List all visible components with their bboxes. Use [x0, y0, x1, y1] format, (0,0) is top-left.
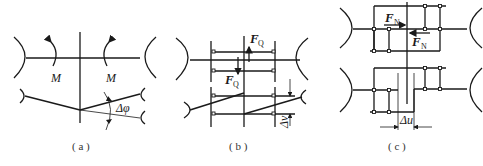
- angle-label: Δφ: [115, 101, 130, 115]
- force-label-top: F: [384, 10, 394, 25]
- displacement-label: Δv: [277, 115, 291, 129]
- lower-right-arc: [470, 68, 482, 112]
- caption-c: ( c ): [388, 140, 406, 153]
- deformed-left: [25, 96, 80, 110]
- deformed-right: [244, 97, 302, 114]
- svg-text:N: N: [394, 18, 400, 27]
- moment-label-left: M: [50, 71, 62, 85]
- upper-right-arc: [470, 8, 482, 48]
- svg-text:N: N: [421, 42, 427, 51]
- small-arc-right-bottom: [141, 111, 145, 124]
- small-arc-left: [20, 89, 24, 103]
- moment-arc-left: [51, 42, 56, 66]
- deformation-figure: M M Δφ ( a ) F Q F Q: [0, 0, 483, 166]
- displacement-label: Δu: [399, 113, 413, 127]
- small-arc-left: [184, 102, 190, 118]
- panel-b: F Q F Q Δv ( b ): [176, 31, 308, 153]
- panel-a: M M Δφ ( a ): [14, 32, 156, 153]
- lower-left-arc: [340, 68, 352, 112]
- left-support-arc: [14, 37, 25, 78]
- svg-text:Q: Q: [233, 80, 239, 89]
- svg-text:Q: Q: [258, 39, 264, 48]
- upper-left-arc: [340, 8, 352, 48]
- force-label-bottom: F: [411, 34, 421, 49]
- small-arc-right-top: [141, 88, 145, 101]
- caption-a: ( a ): [72, 140, 90, 153]
- panel-c: F N F N Δu ( c ): [340, 2, 482, 153]
- moment-label-right: M: [105, 71, 117, 85]
- caption-b: ( b ): [229, 140, 248, 153]
- right-support-arc: [145, 37, 156, 78]
- angle-arc: [104, 92, 111, 130]
- moment-arc-right: [104, 42, 109, 66]
- left-support-arc: [176, 38, 188, 80]
- right-support-arc: [296, 38, 308, 80]
